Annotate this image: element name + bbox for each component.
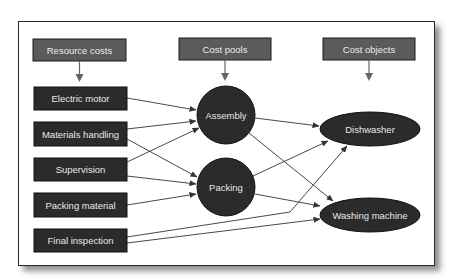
cost-pool-packing: Packing — [197, 158, 255, 216]
cost-pool-label: Assembly — [205, 110, 246, 121]
arrow-electric-motor-to-assembly — [127, 98, 196, 110]
arrow-packing-to-washing-machine — [255, 194, 320, 206]
header-down-arrows — [76, 60, 374, 82]
cost-object-washing-machine: Washing machine — [320, 198, 420, 232]
resource-label: Supervision — [56, 164, 106, 175]
resource-label: Materials handling — [42, 129, 119, 140]
resource-box-packing-material: Packing material — [34, 193, 127, 217]
header-cost-objects: Cost objects — [323, 38, 415, 60]
header-resource-costs: Resource costs — [33, 39, 126, 61]
activity-based-costing-diagram: Resource costs Cost pools Cost objects — [0, 0, 452, 280]
arrow-packing-material-to-packing — [127, 194, 196, 205]
cost-pool-label: Packing — [209, 182, 243, 193]
cost-object-dishwasher: Dishwasher — [320, 112, 420, 146]
header-resource-costs-label: Resource costs — [47, 45, 113, 56]
cost-object-label: Washing machine — [332, 210, 407, 221]
cost-object-label: Dishwasher — [345, 124, 395, 135]
arrow-supervision-to-packing — [127, 176, 196, 184]
resource-box-supervision: Supervision — [34, 158, 127, 181]
resource-box-final-inspection: Final inspection — [34, 229, 127, 252]
resource-label: Packing material — [45, 200, 115, 211]
header-cost-pools-label: Cost pools — [203, 44, 248, 55]
arrow-materials-handling-to-assembly — [127, 121, 196, 129]
arrow-assembly-to-washing-machine — [249, 133, 333, 201]
resource-box-electric-motor: Electric motor — [34, 87, 127, 110]
cost-pool-assembly: Assembly — [197, 86, 255, 144]
resource-label: Final inspection — [47, 235, 113, 246]
arrow-packing-to-dishwasher — [253, 141, 328, 176]
arrow-materials-handling-to-packing — [127, 139, 197, 177]
resource-label: Electric motor — [51, 93, 109, 104]
header-cost-objects-label: Cost objects — [343, 44, 396, 55]
resource-box-materials-handling: Materials handling — [34, 122, 127, 146]
arrow-assembly-to-dishwasher — [255, 118, 319, 126]
header-cost-pools: Cost pools — [179, 38, 271, 60]
